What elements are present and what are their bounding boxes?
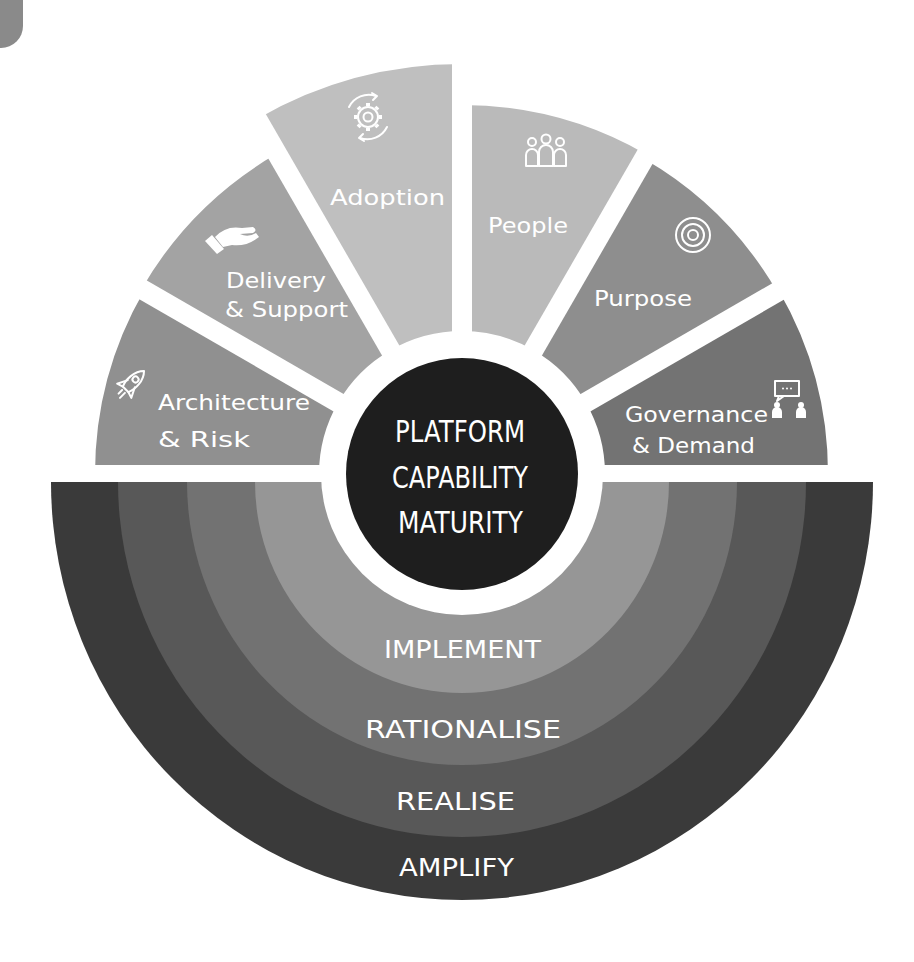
center-title: PLATFORM CAPABILITY MATURITY <box>392 413 528 540</box>
segment-label-governance: Governance <box>625 402 768 427</box>
level-label-amplify: AMPLIFY <box>399 853 515 882</box>
segment-label-support: & Support <box>225 297 348 322</box>
level-label-realise: REALISE <box>396 787 515 816</box>
segment-label-people: People <box>488 213 568 238</box>
segment-label-adoption: Adoption <box>330 185 445 210</box>
segment-label-demand: & Demand <box>632 433 755 458</box>
center-title-line-2: CAPABILITY <box>392 459 528 495</box>
level-label-implement: IMPLEMENT <box>384 635 542 664</box>
center-title-line-3: MATURITY <box>398 504 523 540</box>
segment-label-risk: & Risk <box>158 427 250 452</box>
segment-label-architecture: Architecture <box>158 390 310 415</box>
platform-capability-maturity-diagram: PLATFORM CAPABILITY MATURITY Architectur… <box>0 0 914 962</box>
corner-tab <box>0 0 23 48</box>
segment-label-delivery: Delivery <box>226 268 326 293</box>
segment-label-purpose: Purpose <box>594 286 692 311</box>
level-label-rationalise: RATIONALISE <box>365 715 561 744</box>
center-title-line-1: PLATFORM <box>395 413 525 449</box>
